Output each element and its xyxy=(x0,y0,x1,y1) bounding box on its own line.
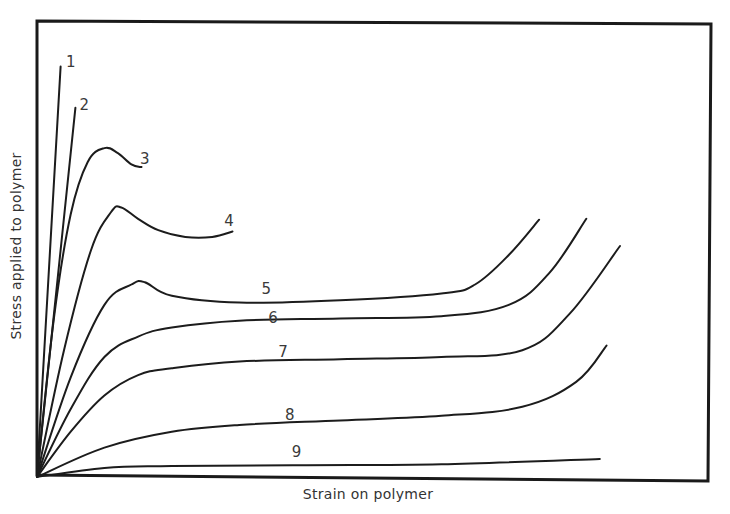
curve-label-4: 4 xyxy=(224,212,234,230)
curve-8 xyxy=(37,346,607,477)
stress-strain-chart: 123456789 Strain on polymer Stress appli… xyxy=(0,0,730,514)
y-axis-label: Stress applied to polymer xyxy=(8,152,24,339)
curve-group xyxy=(37,67,620,477)
curve-label-9: 9 xyxy=(292,443,302,461)
curve-label-1: 1 xyxy=(66,53,76,71)
curve-5 xyxy=(37,220,539,477)
curve-label-3: 3 xyxy=(140,150,150,168)
curve-label-6: 6 xyxy=(268,309,278,327)
curve-label-5: 5 xyxy=(261,280,271,298)
x-axis-label: Strain on polymer xyxy=(303,486,434,502)
curve-label-8: 8 xyxy=(285,406,295,424)
plot-frame xyxy=(37,21,711,481)
curve-label-2: 2 xyxy=(79,96,89,114)
curve-6 xyxy=(37,219,586,477)
curve-label-7: 7 xyxy=(278,343,288,361)
